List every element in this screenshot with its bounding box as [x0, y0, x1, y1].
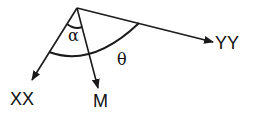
angle-diagram: XX M YY α θ	[0, 0, 255, 113]
alpha-label: α	[68, 27, 79, 45]
vector-drawing	[0, 0, 255, 113]
m-vector-arrow	[77, 8, 98, 88]
yy-axis-arrow	[77, 8, 213, 42]
theta-label: θ	[117, 51, 127, 69]
m-label: M	[93, 92, 108, 110]
yy-label: YY	[215, 34, 239, 52]
xx-label: XX	[10, 90, 34, 108]
